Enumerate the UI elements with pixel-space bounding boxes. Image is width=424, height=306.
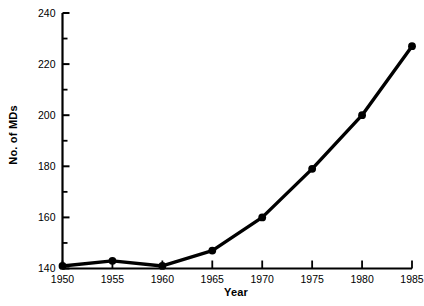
chart-figure: No. of MDs 140160180200220240 1950195519… xyxy=(0,0,424,306)
y-tick-label-200: 200 xyxy=(38,109,56,121)
data-point-1955 xyxy=(109,257,117,265)
y-tick-label-180: 180 xyxy=(38,160,56,172)
x-tick-label-1970: 1970 xyxy=(251,273,275,285)
x-tick-label-1955: 1955 xyxy=(101,273,125,285)
data-point-1960 xyxy=(158,262,166,270)
x-axis-label: Year xyxy=(60,286,412,298)
data-point-1975 xyxy=(308,165,316,173)
data-line-series xyxy=(63,46,413,266)
x-tick-label-1975: 1975 xyxy=(300,273,324,285)
x-axis-tick-labels: 19501955196019651970197519801985 xyxy=(51,273,424,285)
x-tick-label-1980: 1980 xyxy=(350,273,374,285)
data-point-1965 xyxy=(208,247,216,255)
x-tick-label-1965: 1965 xyxy=(201,273,225,285)
y-tick-label-240: 240 xyxy=(38,7,56,19)
y-tick-label-220: 220 xyxy=(38,58,56,70)
data-point-1980 xyxy=(358,111,366,119)
x-tick-label-1960: 1960 xyxy=(151,273,175,285)
plot-area: 140160180200220240 195019551960196519701… xyxy=(0,0,424,306)
x-tick-label-1985: 1985 xyxy=(400,273,424,285)
y-axis-tick-labels: 140160180200220240 xyxy=(38,7,56,275)
data-point-1985 xyxy=(408,42,416,50)
y-tick-label-160: 160 xyxy=(38,211,56,223)
data-point-1970 xyxy=(258,214,266,222)
x-tick-label-1950: 1950 xyxy=(51,273,75,285)
data-point-1950 xyxy=(59,262,67,270)
